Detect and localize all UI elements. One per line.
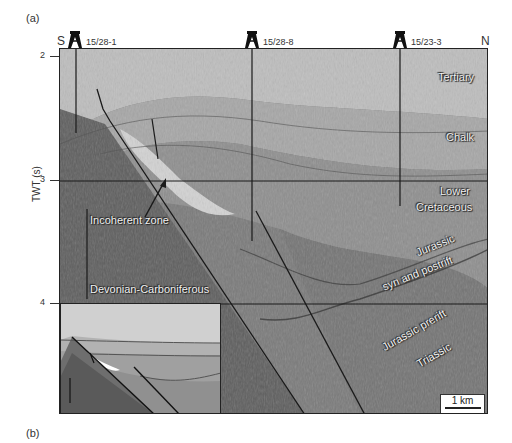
panel-b-label: (b) <box>26 427 39 439</box>
direction-north: N <box>481 34 490 48</box>
unit-label-lower-cretaceous-1: Lower <box>440 185 470 197</box>
well-label-15-28-8: 15/28-8 <box>263 37 294 47</box>
inset-interpretation <box>60 303 221 414</box>
y-tick-mark <box>50 56 59 57</box>
well-label-15-23-3: 15/23-3 <box>411 37 442 47</box>
panel-a-label: (a) <box>26 12 39 24</box>
well-label-15-28-1: 15/28-1 <box>86 37 117 47</box>
y-tick-2: 2 <box>40 50 45 60</box>
scale-bar-label: 1 km <box>452 395 474 406</box>
unit-label-tertiary: Tertiary <box>438 71 474 83</box>
y-axis-label: TWT (s) <box>31 166 42 202</box>
unit-label-devonian-carboniferous: Devonian-Carboniferous <box>90 283 209 295</box>
unit-label-lower-cretaceous-2: Cretaceous <box>416 201 472 213</box>
well-derrick-icon <box>245 31 259 48</box>
well-derrick-icon <box>68 31 82 48</box>
y-tick-mark <box>50 180 59 181</box>
scale-bar-line <box>445 407 481 409</box>
y-tick-4: 4 <box>40 297 45 307</box>
well-derrick-icon <box>393 31 407 48</box>
y-tick-3: 3 <box>40 174 45 184</box>
direction-south: S <box>57 34 65 48</box>
seismic-section: Tertiary Chalk Lower Cretaceous Jurassic… <box>59 48 488 414</box>
unit-label-incoherent-zone: Incoherent zone <box>90 214 169 226</box>
unit-label-chalk: Chalk <box>446 131 474 143</box>
y-tick-mark <box>50 303 59 304</box>
scale-bar: 1 km <box>440 394 485 414</box>
